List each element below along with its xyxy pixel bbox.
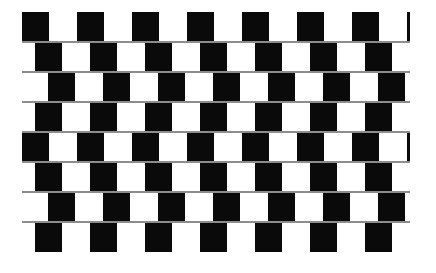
tile-black bbox=[22, 132, 49, 162]
tile-black bbox=[352, 132, 379, 162]
tile-black bbox=[268, 192, 295, 222]
tile-black bbox=[90, 102, 117, 132]
tile-black bbox=[48, 192, 75, 222]
row-5 bbox=[22, 132, 410, 162]
tile-black bbox=[242, 12, 269, 42]
tile-black bbox=[242, 132, 269, 162]
row-8 bbox=[22, 222, 410, 252]
tile-black bbox=[22, 12, 49, 42]
tile-black bbox=[378, 192, 405, 222]
tile-black bbox=[310, 102, 337, 132]
row-2 bbox=[22, 42, 410, 72]
tile-black bbox=[200, 42, 227, 72]
tile-black bbox=[310, 162, 337, 192]
tile-black bbox=[48, 72, 75, 102]
tile-black bbox=[35, 102, 62, 132]
tile-strip bbox=[35, 162, 410, 192]
mortar-line bbox=[22, 41, 410, 43]
mortar-line bbox=[22, 101, 410, 103]
tile-black bbox=[255, 102, 282, 132]
tile-black bbox=[365, 42, 392, 72]
tile-black bbox=[200, 222, 227, 252]
tile-black bbox=[187, 132, 214, 162]
mortar-line bbox=[22, 71, 410, 73]
tile-black bbox=[268, 72, 295, 102]
tile-black bbox=[255, 42, 282, 72]
row-7 bbox=[22, 192, 410, 222]
mortar-line bbox=[22, 131, 410, 133]
mortar-line bbox=[22, 161, 410, 163]
tile-strip bbox=[35, 102, 410, 132]
tile-strip bbox=[22, 12, 410, 42]
tile-black bbox=[200, 102, 227, 132]
tile-black bbox=[407, 12, 410, 42]
tile-black bbox=[77, 132, 104, 162]
tile-strip bbox=[48, 192, 410, 222]
tile-black bbox=[35, 222, 62, 252]
tile-black bbox=[145, 42, 172, 72]
tile-black bbox=[90, 222, 117, 252]
tile-black bbox=[297, 132, 324, 162]
mortar-line bbox=[22, 221, 410, 223]
cafe-wall-pattern bbox=[22, 12, 410, 255]
tile-black bbox=[200, 162, 227, 192]
tile-black bbox=[255, 162, 282, 192]
tile-black bbox=[90, 42, 117, 72]
tile-strip bbox=[22, 132, 410, 162]
tile-black bbox=[365, 222, 392, 252]
row-6 bbox=[22, 162, 410, 192]
row-4 bbox=[22, 102, 410, 132]
tile-black bbox=[145, 162, 172, 192]
tile-black bbox=[145, 222, 172, 252]
tile-black bbox=[323, 192, 350, 222]
tile-black bbox=[35, 162, 62, 192]
tile-black bbox=[310, 42, 337, 72]
tile-black bbox=[158, 192, 185, 222]
tile-black bbox=[352, 12, 379, 42]
tile-black bbox=[255, 222, 282, 252]
tile-black bbox=[158, 72, 185, 102]
tile-black bbox=[323, 72, 350, 102]
tile-black bbox=[378, 72, 405, 102]
tile-black bbox=[132, 12, 159, 42]
tile-black bbox=[407, 132, 410, 162]
illusion-canvas bbox=[0, 0, 436, 273]
tile-black bbox=[90, 162, 117, 192]
tile-black bbox=[365, 102, 392, 132]
tile-black bbox=[187, 12, 214, 42]
tile-black bbox=[310, 222, 337, 252]
tile-black bbox=[132, 132, 159, 162]
tile-strip bbox=[48, 72, 410, 102]
tile-black bbox=[77, 12, 104, 42]
tile-black bbox=[213, 192, 240, 222]
tile-black bbox=[213, 72, 240, 102]
tile-strip bbox=[35, 42, 410, 72]
row-3 bbox=[22, 72, 410, 102]
mortar-line bbox=[22, 191, 410, 193]
tile-black bbox=[103, 72, 130, 102]
row-1 bbox=[22, 12, 410, 42]
tile-strip bbox=[35, 222, 410, 252]
tile-black bbox=[35, 42, 62, 72]
tile-black bbox=[145, 102, 172, 132]
tile-black bbox=[103, 192, 130, 222]
tile-black bbox=[297, 12, 324, 42]
tile-black bbox=[365, 162, 392, 192]
